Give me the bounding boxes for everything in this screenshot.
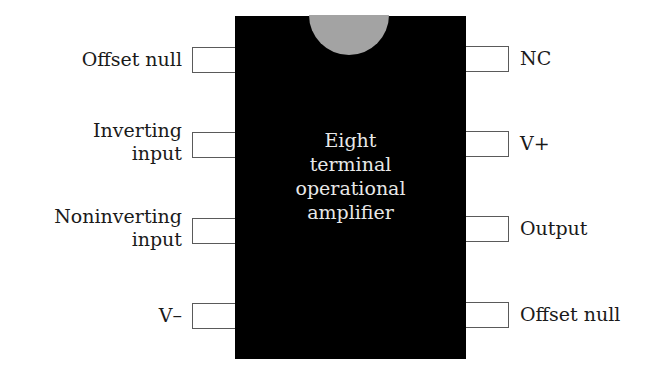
pin-3-label: Noninverting input [54, 205, 182, 251]
pin-3-noninverting-input [192, 218, 235, 244]
pin-7-v-plus [466, 131, 509, 157]
chip-label-line: operational [235, 176, 466, 200]
pin-4-v-minus [192, 303, 235, 329]
pin-5-offset-null [466, 302, 509, 328]
orientation-notch [309, 15, 389, 55]
pin-label-text: NC [520, 47, 551, 70]
ic-chip-body: Eight terminal operational amplifier [235, 16, 466, 359]
pin-7-label: V+ [520, 132, 550, 155]
pin-2-label: Inverting input [93, 119, 182, 165]
pin-label-text: V+ [520, 132, 550, 155]
pin-label-text: input [54, 228, 182, 251]
pin-6-label: Output [520, 217, 587, 240]
pin-label-text: Inverting [93, 119, 182, 142]
chip-label-line: Eight [235, 128, 466, 152]
pin-8-label: NC [520, 47, 551, 70]
pin-5-label: Offset null [520, 303, 620, 326]
pin-label-text: V– [159, 304, 182, 327]
pin-label-text: Output [520, 217, 587, 240]
pin-4-label: V– [159, 304, 182, 327]
pin-6-output [466, 216, 509, 242]
chip-label-line: amplifier [235, 200, 466, 224]
pin-1-label: Offset null [82, 48, 182, 71]
pin-8-nc [466, 46, 509, 72]
pin-label-text: input [93, 142, 182, 165]
pin-label-text: Noninverting [54, 205, 182, 228]
pin-1-offset-null [192, 47, 235, 73]
pin-label-text: Offset null [520, 303, 620, 326]
chip-label-line: terminal [235, 152, 466, 176]
pin-label-text: Offset null [82, 48, 182, 71]
chip-label: Eight terminal operational amplifier [235, 128, 466, 224]
pin-2-inverting-input [192, 132, 235, 158]
